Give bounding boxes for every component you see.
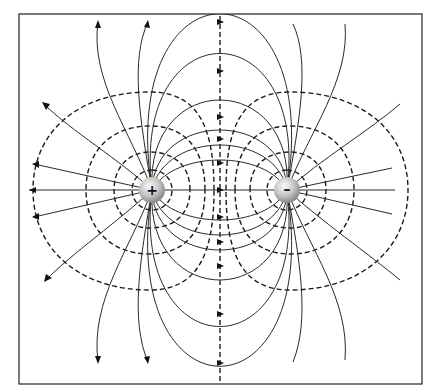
- negative-charge: –: [274, 177, 300, 203]
- arrow-up-icon: [95, 20, 101, 28]
- field-line-neg-right-1: [287, 104, 400, 190]
- equipotential-positive-4: [33, 92, 214, 290]
- field-line-pos-left-3: [34, 190, 152, 217]
- field-line-neg-down-1: [287, 190, 345, 360]
- field-lines: [29, 14, 400, 367]
- minus-sign-icon: –: [284, 181, 291, 197]
- field-arrows: [29, 19, 224, 366]
- field-line-pos-left-4: [46, 190, 152, 280]
- field-line-pos-down-1: [97, 190, 152, 362]
- equipotential-negative-4: [226, 92, 408, 290]
- field-line-pos-left-2: [34, 164, 152, 190]
- field-line-neg-up-1: [287, 24, 345, 190]
- field-line-inner-2: [152, 145, 287, 190]
- plus-sign-icon: +: [146, 182, 158, 198]
- field-line-neg-right-4: [287, 190, 400, 280]
- field-line-pos-up-1: [97, 22, 152, 190]
- arrow-down-icon: [144, 356, 150, 364]
- dipole-field-diagram: + –: [0, 0, 431, 392]
- field-line-neg-right-2: [287, 168, 392, 190]
- arrow-down-icon: [95, 356, 101, 364]
- field-line-pos-left-1: [44, 104, 152, 190]
- arrow-up-icon: [144, 20, 150, 28]
- positive-charge: +: [139, 177, 165, 203]
